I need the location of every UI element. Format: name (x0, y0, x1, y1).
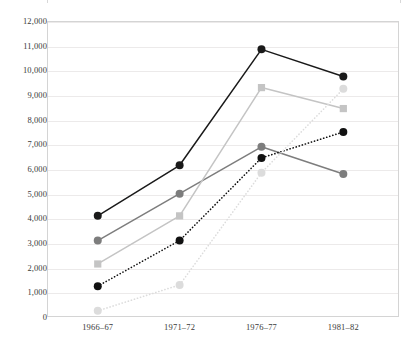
series-line (98, 49, 344, 216)
data-point (339, 170, 347, 178)
data-point (339, 73, 347, 81)
x-tick-label: 1981–82 (328, 322, 359, 332)
series-line (98, 88, 344, 264)
data-point (94, 212, 102, 220)
data-point (94, 282, 102, 290)
data-point (176, 237, 184, 245)
x-tick-label: 1976–77 (246, 322, 277, 332)
series-series-1 (94, 45, 348, 220)
data-point (176, 281, 184, 289)
data-point (176, 161, 184, 169)
series-series-5 (94, 85, 348, 315)
series-series-2 (94, 143, 348, 245)
data-point (257, 154, 265, 162)
data-point (257, 45, 265, 53)
data-point (257, 169, 265, 177)
data-point (176, 212, 183, 219)
x-tick-label: 1971–72 (164, 322, 195, 332)
data-point (176, 190, 184, 198)
data-point (258, 84, 265, 91)
data-point (94, 307, 102, 315)
series-series-3 (94, 84, 347, 268)
series-line (98, 132, 344, 286)
data-point (340, 105, 347, 112)
data-point (257, 143, 265, 151)
x-tick-label: 1966–67 (82, 322, 113, 332)
data-point (339, 128, 347, 136)
series-line (98, 89, 344, 311)
line-chart: Number of Students in Thousands 01,0002,… (0, 0, 404, 340)
series-layer (0, 0, 404, 340)
data-point (94, 260, 101, 267)
data-point (339, 85, 347, 93)
data-point (94, 237, 102, 245)
